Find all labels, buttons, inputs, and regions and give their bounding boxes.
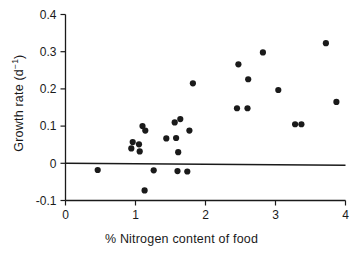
y-tick-label: 0.4 [40,8,57,22]
y-axis-title-base: Growth rate (d [12,69,26,152]
data-point [177,116,183,122]
data-point-group [95,40,340,194]
data-point [142,127,148,133]
y-tick-label: 0.3 [40,45,57,59]
data-point [298,121,304,127]
data-point [275,87,281,93]
data-point [128,145,134,151]
x-tick-label: 1 [132,208,139,222]
y-axis-title-exponent: −1 [10,59,20,69]
data-point [95,167,101,173]
data-point [323,40,329,46]
y-tick-label: 0.2 [40,82,57,96]
data-point [174,168,180,174]
data-point [137,148,143,154]
data-point [190,80,196,86]
data-point [130,139,136,145]
y-axis-title: Growth rate (d−1) [10,23,26,183]
x-tick-label: 2 [202,208,209,222]
x-axis-title: % Nitrogen content of food [0,232,363,246]
y-tick-mark-group [61,15,66,201]
data-point [260,49,266,55]
y-axis-title-close: ) [12,55,26,59]
data-point [142,187,148,193]
data-point [333,99,339,105]
data-point [172,119,178,125]
scatter-plot-figure: Growth rate (d−1) % Nitrogen content of … [0,0,363,260]
data-point [235,61,241,67]
data-point [184,168,190,174]
data-point [136,141,142,147]
data-point [175,149,181,155]
data-point [245,76,251,82]
x-tick-label: 4 [342,208,349,222]
x-tick-label-group: 01234 [62,208,349,222]
y-tick-label: 0.1 [40,119,57,133]
plot-canvas: -0.100.10.20.30.4 01234 [0,0,363,260]
x-tick-label: 3 [272,208,279,222]
data-point [292,121,298,127]
y-tick-label: -0.1 [36,194,57,208]
y-tick-label: 0 [50,157,57,171]
data-point [186,127,192,133]
data-point [151,167,157,173]
x-tick-mark-group [66,201,346,206]
zero-reference-line [66,163,346,165]
data-point [234,105,240,111]
data-point [244,105,250,111]
y-tick-label-group: -0.100.10.20.30.4 [36,8,57,208]
data-point [163,135,169,141]
data-point [173,135,179,141]
x-tick-label: 0 [62,208,69,222]
